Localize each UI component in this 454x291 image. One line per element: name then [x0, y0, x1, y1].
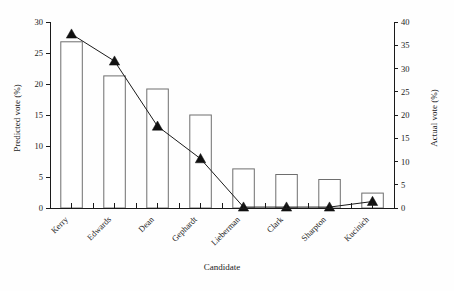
right-tick-label: 15: [401, 133, 410, 143]
y-axis-left-title: Predicted vote (%): [12, 84, 22, 151]
bar-kerry: [61, 42, 83, 208]
right-tick-label: 30: [401, 64, 410, 74]
marker-kerry: [66, 29, 76, 38]
right-tick-label: 10: [401, 157, 410, 167]
bar-dean: [147, 89, 169, 208]
x-category-label-edwards: Edwards: [85, 214, 113, 242]
right-tick-label: 0: [401, 203, 405, 213]
figure-container: 051015202530 0510152025303540 KerryEdwar…: [0, 0, 454, 291]
left-tick-label: 30: [35, 17, 44, 27]
right-tick-label: 20: [401, 110, 410, 120]
left-axis: 051015202530: [35, 17, 51, 213]
x-category-label-kucinich: Kucinich: [342, 214, 372, 244]
x-category-label-sharpton: Sharpton: [299, 214, 328, 243]
right-tick-label: 35: [401, 40, 410, 50]
right-axis: 0510152025303540: [394, 17, 410, 213]
left-tick-label: 0: [39, 203, 43, 213]
x-axis-title: Candidate: [204, 262, 241, 272]
x-category-label-gephardt: Gephardt: [169, 214, 199, 244]
x-category-label-clark: Clark: [264, 214, 285, 235]
left-tick-label: 25: [35, 48, 44, 58]
right-tick-label: 25: [401, 87, 410, 97]
left-tick-label: 15: [35, 110, 44, 120]
chart-canvas: 051015202530 0510152025303540 KerryEdwar…: [0, 0, 454, 291]
x-category-label-lieberman: Lieberman: [209, 214, 243, 248]
marker-edwards: [109, 56, 119, 65]
x-axis-category-labels: KerryEdwardsDeanGephardtLiebermanClarkSh…: [49, 214, 372, 248]
x-category-label-dean: Dean: [136, 214, 156, 234]
x-category-label-kerry: Kerry: [49, 214, 71, 236]
right-tick-label: 40: [401, 17, 410, 27]
y-axis-right-title: Actual vote (%): [429, 89, 439, 146]
left-tick-label: 10: [35, 141, 44, 151]
left-tick-label: 20: [35, 79, 44, 89]
right-tick-label: 5: [401, 180, 405, 190]
bar-edwards: [104, 76, 126, 208]
left-tick-label: 5: [39, 172, 43, 182]
